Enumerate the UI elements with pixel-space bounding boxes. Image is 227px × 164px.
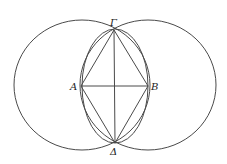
- segment-gamma-b: [114, 30, 148, 86]
- label-b: B: [150, 81, 158, 92]
- construction-svg: A B Γ Δ: [0, 0, 227, 164]
- label-gamma: Γ: [109, 17, 118, 28]
- label-a: A: [69, 81, 77, 92]
- label-delta: Δ: [109, 146, 117, 157]
- segment-gamma-delta: [114, 30, 115, 143]
- geometry-figure: A B Γ Δ: [0, 0, 227, 164]
